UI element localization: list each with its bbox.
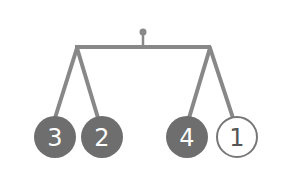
weight-label: 4 — [179, 124, 194, 152]
strings — [55, 48, 233, 118]
weight-4: 1 — [217, 117, 257, 157]
hanger — [75, 29, 211, 48]
weight-3: 4 — [166, 116, 208, 158]
weight-label: 3 — [47, 124, 62, 152]
weight-label: 1 — [229, 124, 244, 152]
string-right-outer — [210, 48, 233, 118]
weight-label: 2 — [94, 124, 109, 152]
weight-1: 3 — [34, 116, 76, 158]
balance-mobile-diagram: 3 2 4 1 — [0, 0, 284, 186]
string-left-outer — [55, 48, 77, 118]
string-left-inner — [77, 48, 98, 118]
string-right-inner — [189, 48, 210, 118]
weight-2: 2 — [81, 116, 123, 158]
